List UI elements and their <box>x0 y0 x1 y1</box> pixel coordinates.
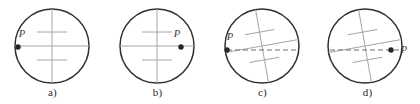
panel-caption-d: d) <box>315 86 420 98</box>
figure-root: P a) P b) P c) P d) <box>0 0 420 104</box>
point-p-marker <box>388 47 393 52</box>
globe-panel-d: P d) <box>315 0 420 104</box>
point-p-label: P <box>226 31 234 42</box>
point-p-marker <box>178 44 183 49</box>
panel-caption-c: c) <box>210 86 315 98</box>
point-p-marker <box>15 44 20 49</box>
point-p-label: P <box>400 44 408 55</box>
globe-panel-b: P b) <box>105 0 210 104</box>
point-p-label: P <box>173 28 181 39</box>
panel-caption-b: b) <box>105 86 210 98</box>
panel-caption-a: a) <box>0 86 105 98</box>
globe-panel-c: P c) <box>210 0 315 104</box>
point-p-label: P <box>18 28 26 39</box>
point-p-marker <box>224 47 229 52</box>
globe-panel-a: P a) <box>0 0 105 104</box>
